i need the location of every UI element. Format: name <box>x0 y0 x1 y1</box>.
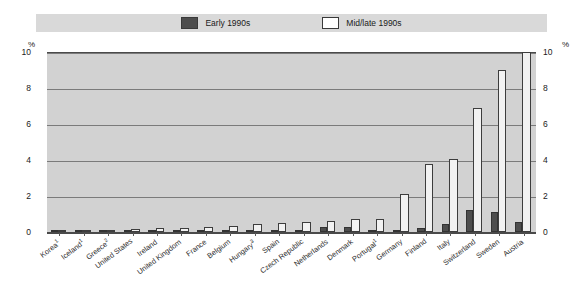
x-axis-tick <box>279 233 280 236</box>
x-axis-tick <box>181 233 182 236</box>
x-axis-tick <box>206 233 207 236</box>
x-axis-tick <box>499 233 500 236</box>
bar-group <box>340 52 364 232</box>
x-axis-tick <box>304 233 305 236</box>
bar-mid-late-1990s <box>278 223 287 232</box>
x-axis-label-korea: Korea1 <box>38 238 61 259</box>
bar-group <box>316 52 340 232</box>
x-axis-tick <box>133 233 134 236</box>
bar-group <box>438 52 462 232</box>
y-axis-tick-right-4: 4 <box>543 156 565 165</box>
bar-group <box>512 52 536 232</box>
bar-mid-late-1990s <box>302 222 311 232</box>
x-axis-tick <box>255 233 256 236</box>
bar-mid-late-1990s <box>522 52 531 232</box>
bar-early-1990s <box>466 210 473 232</box>
y-axis-tick-left-4: 4 <box>9 156 31 165</box>
legend-swatch-icon-mid <box>322 17 339 29</box>
bar-mid-late-1990s <box>473 108 482 232</box>
bar-group <box>365 52 389 232</box>
bar-series-container <box>47 52 536 232</box>
x-axis-tick <box>59 233 60 236</box>
bar-group <box>145 52 169 232</box>
x-axis-label-portugal: Portugal1 <box>350 238 380 263</box>
y-axis-tick-left-8: 8 <box>9 84 31 93</box>
legend-swatch-icon-early <box>181 17 198 29</box>
bar-mid-late-1990s <box>376 219 385 233</box>
y-axis-tick-right-0: 0 <box>543 228 565 237</box>
bar-mid-late-1990s <box>498 70 507 232</box>
x-axis-tick <box>108 233 109 236</box>
bar-early-1990s <box>491 212 498 232</box>
bar-group <box>71 52 95 232</box>
y-axis-tick-left-2: 2 <box>9 192 31 201</box>
x-axis-tick <box>84 233 85 236</box>
chart-legend: Early 1990s Mid/late 1990s <box>36 14 547 32</box>
bar-group <box>389 52 413 232</box>
bar-group <box>292 52 316 232</box>
bar-group <box>243 52 267 232</box>
bar-group <box>267 52 291 232</box>
x-axis-tick <box>157 233 158 236</box>
x-axis-tick <box>475 233 476 236</box>
y-axis-tick-left-0: 0 <box>9 228 31 237</box>
bar-mid-late-1990s <box>351 219 360 232</box>
x-axis-label-iceland: Iceland1 <box>59 238 86 261</box>
legend-item-mid-late-1990s: Mid/late 1990s <box>322 17 401 29</box>
y-axis-tick-right-6: 6 <box>543 120 565 129</box>
bar-early-1990s <box>442 224 449 232</box>
bar-mid-late-1990s <box>253 224 262 232</box>
bar-group <box>463 52 487 232</box>
bar-group <box>194 52 218 232</box>
x-axis-label-france: France <box>185 238 208 258</box>
bar-group <box>487 52 511 232</box>
x-axis-label-germany: Germany <box>375 238 404 262</box>
chart-figure: Early 1990s Mid/late 1990s % % Korea1Ice… <box>0 0 583 300</box>
x-axis-tick <box>524 233 525 236</box>
x-axis-tick <box>328 233 329 236</box>
x-axis-label-italy: Italy <box>436 238 451 252</box>
bar-early-1990s <box>515 222 522 232</box>
x-axis-label-hungary: Hungary3 <box>227 238 257 264</box>
y-axis-tick-right-2: 2 <box>543 192 565 201</box>
legend-label-early: Early 1990s <box>205 19 250 28</box>
x-axis-labels: Korea1Iceland1Greece2United StatesIrelan… <box>0 232 583 300</box>
y-axis-tick-left-6: 6 <box>9 120 31 129</box>
x-axis-tick <box>426 233 427 236</box>
y-axis-tick-left-10: 10 <box>9 48 31 57</box>
x-axis-tick <box>377 233 378 236</box>
legend-item-early-1990s: Early 1990s <box>181 17 250 29</box>
x-axis-label-finland: Finland <box>404 238 428 259</box>
x-axis-label-denmark: Denmark <box>326 238 354 262</box>
bar-mid-late-1990s <box>400 194 409 232</box>
bar-group <box>47 52 71 232</box>
y-axis-tick-right-10: 10 <box>543 48 565 57</box>
bar-group <box>169 52 193 232</box>
legend-label-mid: Mid/late 1990s <box>346 19 401 28</box>
bar-group <box>218 52 242 232</box>
bar-mid-late-1990s <box>327 221 336 232</box>
x-axis-tick <box>353 233 354 236</box>
x-axis-tick <box>230 233 231 236</box>
y-axis-tick-right-8: 8 <box>543 84 565 93</box>
bar-mid-late-1990s <box>425 164 434 232</box>
bar-group <box>414 52 438 232</box>
x-axis-label-austria: Austria <box>502 238 525 258</box>
bar-group <box>120 52 144 232</box>
bar-mid-late-1990s <box>449 159 458 232</box>
x-axis-tick <box>450 233 451 236</box>
bar-group <box>96 52 120 232</box>
x-axis-tick <box>402 233 403 236</box>
x-axis-label-sweden: Sweden <box>475 238 501 260</box>
